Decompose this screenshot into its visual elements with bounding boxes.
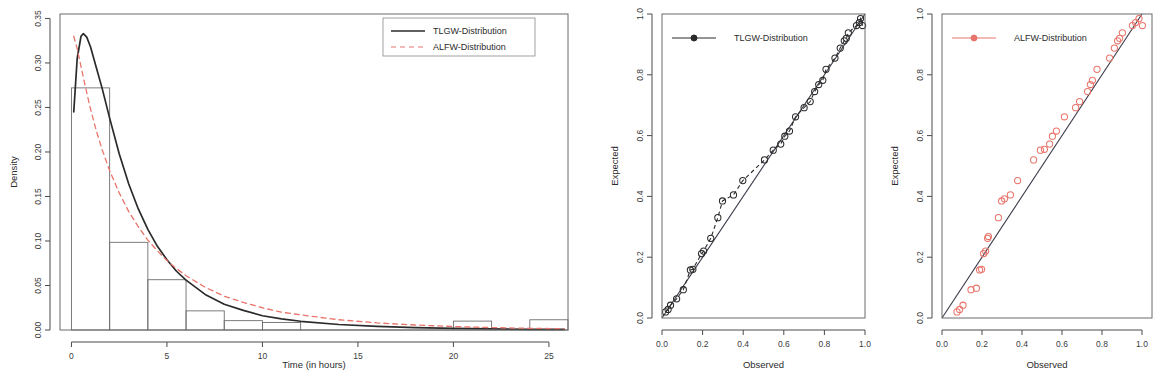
pp-tlgw-point bbox=[715, 215, 721, 221]
pp-alfw-legend-marker bbox=[971, 35, 977, 41]
histogram-x-tick-label: 25 bbox=[544, 351, 554, 361]
pp-alfw-point bbox=[1077, 98, 1083, 104]
pp-alfw-point bbox=[1119, 30, 1125, 36]
pp-tlgw-legend: TLGW-Distribution bbox=[672, 33, 808, 43]
pp-alfw-y-ticks bbox=[927, 14, 932, 318]
histogram-y-tick-label: 0.30 bbox=[33, 54, 43, 71]
pp-tlgw-y-axis-title: Expected bbox=[609, 146, 620, 186]
histogram-plot-frame bbox=[60, 14, 568, 330]
histogram-legend: TLGW-DistributionALFW-Distribution bbox=[383, 18, 535, 56]
pp-tlgw-x-axis-title: Observed bbox=[743, 359, 784, 370]
pp-tlgw-x-tick-labels: 0.00.20.40.60.81.0 bbox=[656, 339, 871, 349]
pp-alfw-y-tick-label: 0.8 bbox=[915, 69, 925, 81]
histogram-bar bbox=[148, 280, 186, 330]
pp-alfw-x-tick-label: 0.6 bbox=[1056, 339, 1068, 349]
histogram-x-tick-label: 20 bbox=[449, 351, 459, 361]
panel-pp-plot-tlgw: 0.00.20.40.60.81.0 0.00.20.40.60.81.0 TL… bbox=[600, 0, 890, 376]
pp-alfw-x-tick-labels: 0.00.20.40.60.81.0 bbox=[936, 339, 1148, 349]
pp-alfw-point bbox=[1061, 114, 1067, 120]
pp-alfw-point bbox=[1085, 88, 1091, 94]
pp-alfw-y-tick-labels: 0.00.20.40.60.81.0 bbox=[915, 8, 925, 324]
histogram-bar bbox=[186, 311, 224, 330]
histogram-y-tick-label: 0.15 bbox=[33, 188, 43, 205]
panel-histogram: 0.000.050.100.150.200.250.300.35 0510152… bbox=[0, 0, 580, 376]
pp-alfw-data-series bbox=[954, 15, 1146, 315]
histogram-x-axis-title: Time (in hours) bbox=[282, 359, 346, 370]
histogram-y-tick-label: 0.20 bbox=[33, 143, 43, 160]
pp-tlgw-y-tick-label: 0.6 bbox=[635, 129, 645, 141]
pp-alfw-point bbox=[1111, 45, 1117, 51]
pp-tlgw-x-ticks bbox=[662, 330, 865, 335]
pp-alfw-y-axis-title: Expected bbox=[889, 146, 900, 186]
pp-alfw-point bbox=[1107, 55, 1113, 61]
histogram-x-tick-label: 0 bbox=[69, 351, 74, 361]
pp-tlgw-svg: 0.00.20.40.60.81.0 0.00.20.40.60.81.0 TL… bbox=[600, 0, 890, 376]
histogram-density-curves bbox=[74, 34, 564, 330]
histogram-y-tick-label: 0.00 bbox=[33, 321, 43, 338]
pp-tlgw-y-tick-label: 0.8 bbox=[635, 69, 645, 81]
density-curve-alfw bbox=[74, 36, 564, 329]
pp-alfw-point bbox=[960, 302, 966, 308]
histogram-bars bbox=[71, 88, 568, 330]
pp-tlgw-y-tick-label: 0.4 bbox=[635, 190, 645, 202]
pp-tlgw-x-tick-label: 0.6 bbox=[778, 339, 790, 349]
histogram-x-tick-label: 10 bbox=[258, 351, 268, 361]
pp-alfw-point bbox=[1007, 192, 1013, 198]
pp-tlgw-legend-label: TLGW-Distribution bbox=[734, 33, 808, 43]
pp-tlgw-x-tick-label: 0.2 bbox=[697, 339, 709, 349]
pp-tlgw-y-tick-label: 0.2 bbox=[635, 251, 645, 263]
pp-alfw-x-tick-label: 0.4 bbox=[1016, 339, 1028, 349]
histogram-y-tick-label: 0.25 bbox=[33, 99, 43, 116]
histogram-y-tick-labels: 0.000.050.100.150.200.250.300.35 bbox=[33, 10, 43, 338]
pp-alfw-point bbox=[1041, 146, 1047, 152]
histogram-bar bbox=[71, 88, 109, 330]
pp-alfw-point bbox=[1073, 105, 1079, 111]
histogram-y-tick-label: 0.05 bbox=[33, 277, 43, 294]
histogram-x-tick-label: 5 bbox=[165, 351, 170, 361]
pp-alfw-x-axis-title: Observed bbox=[1026, 359, 1067, 370]
density-curve-tlgw bbox=[74, 34, 564, 330]
histogram-legend-label-alfw: ALFW-Distribution bbox=[433, 42, 506, 52]
pp-alfw-x-tick-label: 1.0 bbox=[1136, 339, 1148, 349]
histogram-y-tick-label: 0.10 bbox=[33, 232, 43, 249]
pp-alfw-point bbox=[1053, 128, 1059, 134]
pp-alfw-point bbox=[1015, 177, 1021, 183]
pp-alfw-y-tick-label: 1.0 bbox=[915, 8, 925, 20]
pp-tlgw-point bbox=[761, 157, 767, 163]
pp-tlgw-y-tick-label: 0.0 bbox=[635, 312, 645, 324]
histogram-x-ticks bbox=[71, 342, 548, 347]
panel-pp-plot-alfw: 0.00.20.40.60.81.0 0.00.20.40.60.81.0 AL… bbox=[880, 0, 1156, 376]
pp-alfw-x-tick-label: 0.2 bbox=[976, 339, 988, 349]
pp-alfw-point bbox=[1047, 141, 1053, 147]
pp-tlgw-x-tick-label: 1.0 bbox=[859, 339, 871, 349]
pp-alfw-y-tick-label: 0.2 bbox=[915, 251, 925, 263]
pp-alfw-y-tick-label: 0.6 bbox=[915, 129, 925, 141]
pp-alfw-point bbox=[1139, 22, 1145, 28]
pp-alfw-y-tick-label: 0.4 bbox=[915, 190, 925, 202]
pp-tlgw-point bbox=[845, 30, 851, 36]
histogram-legend-label-tlgw: TLGW-Distribution bbox=[433, 26, 507, 36]
pp-alfw-x-tick-label: 0.0 bbox=[936, 339, 948, 349]
histogram-bar bbox=[262, 322, 300, 330]
histogram-x-tick-label: 15 bbox=[353, 351, 363, 361]
pp-alfw-point bbox=[1094, 66, 1100, 72]
pp-tlgw-point bbox=[730, 192, 736, 198]
pp-alfw-legend: ALFW-Distribution bbox=[952, 33, 1087, 43]
pp-tlgw-y-tick-label: 1.0 bbox=[635, 8, 645, 20]
pp-tlgw-x-tick-label: 0.0 bbox=[656, 339, 668, 349]
pp-alfw-svg: 0.00.20.40.60.81.0 0.00.20.40.60.81.0 AL… bbox=[880, 0, 1156, 376]
pp-tlgw-legend-marker bbox=[691, 35, 697, 41]
histogram-bar bbox=[224, 321, 262, 330]
pp-alfw-x-tick-label: 0.8 bbox=[1096, 339, 1108, 349]
histogram-y-tick-label: 0.35 bbox=[33, 10, 43, 27]
histogram-svg: 0.000.050.100.150.200.250.300.35 0510152… bbox=[0, 0, 580, 376]
pp-tlgw-x-tick-label: 0.4 bbox=[737, 339, 749, 349]
pp-tlgw-y-ticks bbox=[647, 14, 652, 318]
histogram-y-axis-title: Density bbox=[8, 156, 19, 188]
pp-alfw-point bbox=[1031, 157, 1037, 163]
pp-alfw-plot-frame bbox=[942, 14, 1152, 318]
pp-tlgw-x-tick-label: 0.8 bbox=[818, 339, 830, 349]
pp-alfw-x-ticks bbox=[942, 330, 1142, 335]
pp-alfw-point bbox=[995, 215, 1001, 221]
pp-alfw-y-tick-label: 0.0 bbox=[915, 312, 925, 324]
